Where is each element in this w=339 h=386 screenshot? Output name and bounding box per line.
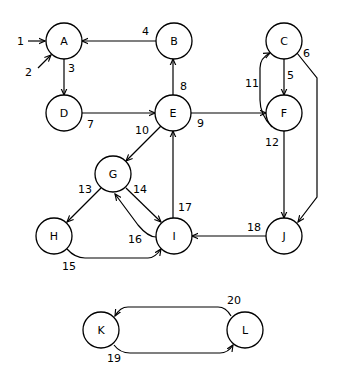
svg-text:D: D: [60, 107, 68, 120]
node-e: E: [155, 95, 191, 131]
edge-label-2: 2: [25, 66, 32, 79]
svg-text:K: K: [97, 324, 105, 337]
node-k: K: [83, 312, 119, 348]
node-f: F: [266, 95, 302, 131]
node-g: G: [95, 156, 131, 192]
graph-svg: 1 2 3 4 5 6 7 8 9 10 11 12 13 14 15 16 1…: [0, 0, 339, 386]
edge-2: [38, 55, 51, 68]
edge-label-12: 12: [265, 136, 279, 149]
svg-text:F: F: [281, 107, 287, 120]
edge-label-8: 8: [180, 80, 187, 93]
node-a: A: [46, 23, 82, 59]
svg-text:B: B: [170, 35, 178, 48]
node-b: B: [156, 23, 192, 59]
edge-label-3: 3: [68, 62, 75, 75]
edge-label-14: 14: [133, 183, 147, 196]
edge-label-1: 1: [17, 35, 24, 48]
edge-label-20: 20: [227, 294, 241, 307]
node-i: I: [156, 218, 192, 254]
edge-label-4: 4: [142, 25, 149, 38]
edge-label-9: 9: [197, 117, 204, 130]
node-j: J: [266, 218, 302, 254]
svg-text:L: L: [242, 324, 249, 337]
edge-label-16: 16: [128, 233, 142, 246]
edge-6: [297, 53, 317, 222]
svg-text:G: G: [109, 168, 118, 181]
node-h: H: [36, 218, 72, 254]
edge-20: [115, 307, 231, 316]
svg-text:J: J: [281, 230, 285, 243]
svg-text:A: A: [60, 35, 68, 48]
svg-text:E: E: [170, 107, 177, 120]
edge-label-10: 10: [135, 124, 149, 137]
node-l: L: [227, 312, 263, 348]
node-c: C: [266, 23, 302, 59]
edge-label-13: 13: [78, 183, 92, 196]
graph-diagram: 1 2 3 4 5 6 7 8 9 10 11 12 13 14 15 16 1…: [0, 0, 339, 386]
edge-label-15: 15: [62, 260, 76, 273]
edge-16: [115, 194, 156, 237]
edge-label-11: 11: [245, 77, 259, 90]
edge-label-17: 17: [178, 201, 192, 214]
edge-19: [114, 345, 233, 353]
edge-label-6: 6: [303, 47, 310, 60]
svg-text:H: H: [50, 230, 58, 243]
svg-text:I: I: [172, 230, 175, 243]
edge-label-19: 19: [107, 352, 121, 365]
edge-label-7: 7: [87, 118, 94, 131]
edge-15: [67, 249, 161, 258]
edge-label-18: 18: [247, 221, 261, 234]
svg-text:C: C: [280, 35, 288, 48]
node-d: D: [46, 95, 82, 131]
edge-label-5: 5: [287, 69, 294, 82]
